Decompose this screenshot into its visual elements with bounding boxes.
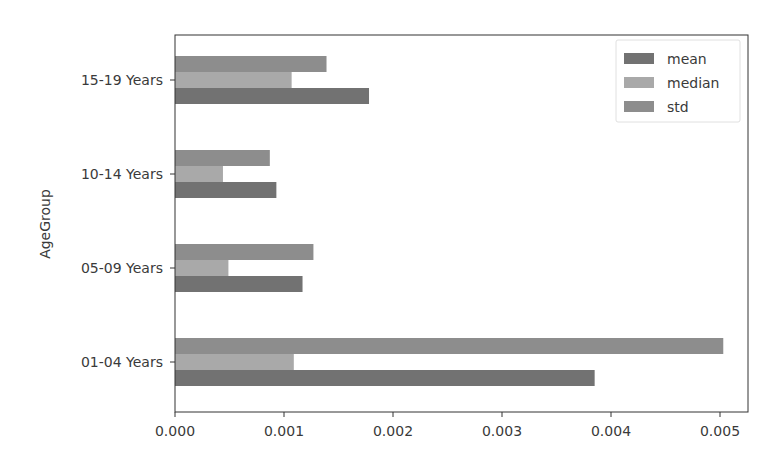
y-axis-label: AgeGroup bbox=[37, 189, 53, 259]
legend: meanmedianstd bbox=[616, 40, 740, 122]
x-axis-ticks: 0.0000.0010.0020.0030.0040.005 bbox=[155, 412, 740, 439]
x-tick-label: 0.003 bbox=[482, 423, 522, 439]
bar-mean bbox=[175, 276, 303, 292]
y-tick-label: 05-09 Years bbox=[81, 260, 163, 276]
y-tick-label: 15-19 Years bbox=[81, 72, 163, 88]
bar-median bbox=[175, 354, 294, 370]
legend-label-median: median bbox=[667, 75, 719, 91]
bar-std bbox=[175, 338, 723, 354]
legend-swatch-median bbox=[624, 77, 654, 88]
bar-std bbox=[175, 56, 327, 72]
legend-swatch-mean bbox=[624, 53, 654, 64]
bar-mean bbox=[175, 182, 276, 198]
y-tick-label: 01-04 Years bbox=[81, 354, 163, 370]
bar-median bbox=[175, 72, 292, 88]
bar-mean bbox=[175, 370, 595, 386]
x-tick-label: 0.004 bbox=[591, 423, 631, 439]
bar-chart: 0.0000.0010.0020.0030.0040.005 01-04 Yea… bbox=[0, 0, 777, 471]
bar-std bbox=[175, 244, 313, 260]
legend-label-mean: mean bbox=[667, 51, 707, 67]
y-tick-label: 10-14 Years bbox=[81, 166, 163, 182]
legend-label-std: std bbox=[667, 99, 689, 115]
x-tick-label: 0.001 bbox=[264, 423, 304, 439]
bar-mean bbox=[175, 88, 369, 104]
x-tick-label: 0.005 bbox=[700, 423, 740, 439]
x-tick-label: 0.000 bbox=[155, 423, 195, 439]
x-tick-label: 0.002 bbox=[373, 423, 413, 439]
y-axis-ticks: 01-04 Years05-09 Years10-14 Years15-19 Y… bbox=[81, 72, 175, 370]
bar-median bbox=[175, 260, 228, 276]
bar-median bbox=[175, 166, 223, 182]
bar-std bbox=[175, 150, 270, 166]
legend-swatch-std bbox=[624, 101, 654, 112]
